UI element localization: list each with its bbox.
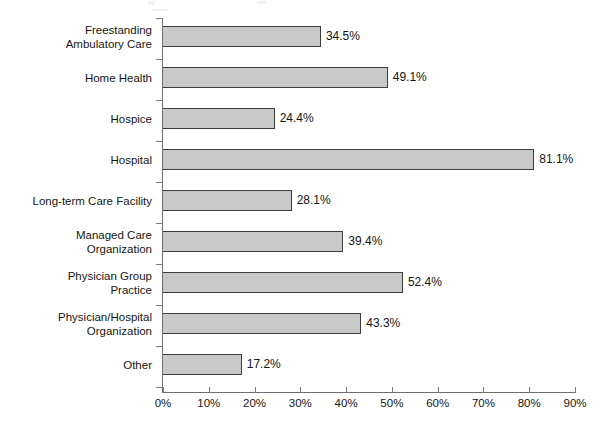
category-label: Home Health bbox=[0, 67, 152, 88]
category-label-text: Physician Group Practice bbox=[4, 269, 152, 297]
y-axis-tick bbox=[156, 346, 163, 347]
bar bbox=[163, 149, 534, 170]
y-axis-tick bbox=[156, 18, 163, 19]
x-axis-tick bbox=[392, 387, 393, 393]
category-label: Managed Care Organization bbox=[0, 231, 152, 252]
x-axis-tick-label: 80% bbox=[518, 396, 541, 410]
bar-value-label: 17.2% bbox=[247, 354, 281, 375]
scan-artifact bbox=[148, 1, 154, 5]
x-axis-tick-label: 60% bbox=[426, 396, 449, 410]
bar bbox=[163, 190, 292, 211]
y-axis-tick bbox=[156, 182, 163, 183]
x-axis-tick bbox=[255, 387, 256, 393]
x-axis-tick-label: 90% bbox=[563, 396, 586, 410]
y-axis-tick bbox=[156, 100, 163, 101]
category-label: Hospice bbox=[0, 108, 152, 129]
x-axis-tick bbox=[209, 387, 210, 393]
category-label-text: Hospice bbox=[4, 112, 152, 126]
category-label-text: Managed Care Organization bbox=[4, 228, 152, 256]
y-axis-tick bbox=[156, 141, 163, 142]
x-axis-tick-label: 20% bbox=[243, 396, 266, 410]
bar-value-label: 49.1% bbox=[393, 67, 427, 88]
bar bbox=[163, 313, 361, 334]
category-label-text: Physician/Hospital Organization bbox=[4, 310, 152, 338]
x-axis-tick bbox=[438, 387, 439, 393]
category-label-text: Other bbox=[4, 358, 152, 372]
bar bbox=[163, 108, 275, 129]
y-axis-tick bbox=[156, 59, 163, 60]
x-axis-tick bbox=[346, 387, 347, 393]
scan-artifact bbox=[257, 1, 266, 4]
x-axis-tick bbox=[300, 387, 301, 393]
bar-value-label: 81.1% bbox=[539, 149, 573, 170]
y-axis-tick bbox=[156, 305, 163, 306]
category-label: Physician/Hospital Organization bbox=[0, 313, 152, 334]
category-label: Other bbox=[0, 354, 152, 375]
bar bbox=[163, 67, 388, 88]
category-label: Long-term Care Facility bbox=[0, 190, 152, 211]
bar-value-label: 43.3% bbox=[366, 313, 400, 334]
bar bbox=[163, 272, 403, 293]
category-label-text: Freestanding Ambulatory Care bbox=[4, 23, 152, 51]
x-axis-line bbox=[162, 392, 576, 393]
bar-chart: 0%10%20%30%40%50%60%70%80%90% Freestandi… bbox=[0, 0, 600, 439]
x-axis-tick bbox=[163, 387, 164, 393]
category-label-text: Hospital bbox=[4, 153, 152, 167]
bar-value-label: 34.5% bbox=[326, 26, 360, 47]
category-label: Physician Group Practice bbox=[0, 272, 152, 293]
category-label: Hospital bbox=[0, 149, 152, 170]
x-axis-tick-label: 0% bbox=[155, 396, 172, 410]
bar-value-label: 28.1% bbox=[297, 190, 331, 211]
x-axis-tick-label: 50% bbox=[380, 396, 403, 410]
x-axis-tick bbox=[529, 387, 530, 393]
x-axis-tick bbox=[575, 387, 576, 393]
y-axis-tick bbox=[156, 387, 163, 388]
x-axis-tick-label: 30% bbox=[289, 396, 312, 410]
y-axis-tick bbox=[156, 223, 163, 224]
category-label: Freestanding Ambulatory Care bbox=[0, 26, 152, 47]
y-axis-tick bbox=[156, 264, 163, 265]
x-axis-tick bbox=[483, 387, 484, 393]
category-label-text: Long-term Care Facility bbox=[4, 194, 152, 208]
bar-value-label: 39.4% bbox=[348, 231, 382, 252]
bar-value-label: 24.4% bbox=[280, 108, 314, 129]
x-axis-tick-label: 70% bbox=[472, 396, 495, 410]
bar bbox=[163, 354, 242, 375]
category-label-text: Home Health bbox=[4, 71, 152, 85]
bar-value-label: 52.4% bbox=[408, 272, 442, 293]
bar bbox=[163, 231, 343, 252]
x-axis-tick-label: 10% bbox=[197, 396, 220, 410]
bar bbox=[163, 26, 321, 47]
scan-artifact bbox=[152, 9, 168, 11]
x-axis-tick-label: 40% bbox=[335, 396, 358, 410]
